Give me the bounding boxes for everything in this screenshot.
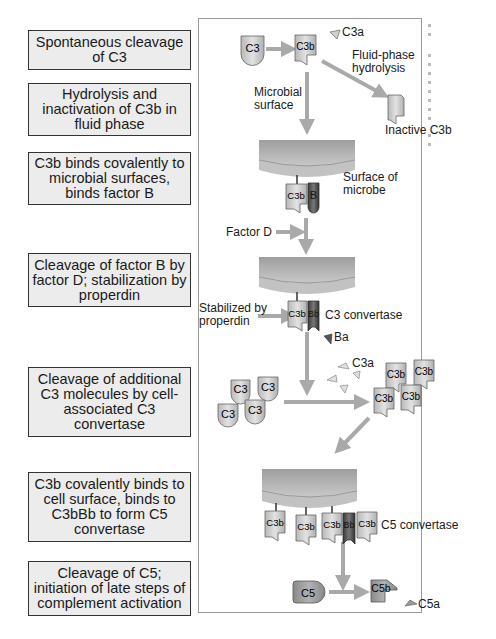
inactive-c3b-label: Inactive C3b <box>385 124 452 137</box>
cell-membrane-3 <box>262 469 357 508</box>
svg-text:B: B <box>310 189 317 201</box>
microbe-membrane-1 <box>259 140 355 177</box>
svg-text:C3b: C3b <box>288 308 305 319</box>
svg-text:C3b: C3b <box>296 41 315 52</box>
svg-text:C3: C3 <box>248 404 262 416</box>
svg-text:C3: C3 <box>261 381 275 393</box>
c5-molecule: C5 <box>293 581 325 603</box>
c3-molecules-cluster: C3 C3 C3 C3 <box>218 377 278 427</box>
svg-text:C5b: C5b <box>371 582 390 594</box>
surface-of-microbe-label: Surface ofmicrobe <box>343 171 398 197</box>
microbial-surface-label: Microbialsurface <box>254 86 302 112</box>
svg-text:C3: C3 <box>221 408 235 420</box>
c3a-fragment <box>330 30 340 39</box>
properdin-label: Stabilized byproperdin <box>199 302 267 328</box>
svg-text:C5: C5 <box>301 587 315 599</box>
c5a-fragment <box>405 600 417 606</box>
svg-text:C3b: C3b <box>297 521 314 532</box>
svg-text:C3b: C3b <box>402 391 421 402</box>
c5-convertase-complex: C3b C3b C3b Bb C3b <box>265 511 377 545</box>
svg-text:C3b: C3b <box>375 393 394 404</box>
fluid-phase-label: Fluid-phasehydrolysis <box>352 49 415 75</box>
c3a-label: C3a <box>342 26 364 39</box>
c3b-molecules-cluster: C3b C3b C3b C3b <box>374 360 434 417</box>
svg-text:C3b: C3b <box>358 518 375 529</box>
c3b-bound-factor-b: C3b B <box>286 183 319 213</box>
svg-text:Bb: Bb <box>343 520 354 530</box>
inactive-c3b-molecule <box>388 95 404 124</box>
factor-d-label: Factor D <box>226 226 272 239</box>
svg-text:Bb: Bb <box>308 309 319 319</box>
c3b-molecule: C3b <box>295 35 316 65</box>
svg-text:C3: C3 <box>245 42 259 54</box>
ba-label: Ba <box>334 331 349 344</box>
svg-text:C3b: C3b <box>323 519 340 530</box>
c3-convertase-c3bbb: C3b Bb <box>288 301 319 331</box>
svg-text:C3b: C3b <box>415 366 434 377</box>
c5b-molecule: C5b <box>371 580 397 602</box>
ba-fragment <box>324 334 332 344</box>
c5-convertase-label: C5 convertase <box>381 519 458 532</box>
svg-text:C3b: C3b <box>387 369 406 380</box>
svg-text:C3: C3 <box>233 383 247 395</box>
c3-convertase-label: C3 convertase <box>325 309 402 322</box>
c3-molecule: C3 <box>241 36 264 66</box>
c3a-cluster-label: C3a <box>352 357 374 370</box>
microbe-membrane-2 <box>259 257 355 294</box>
c5a-label: C5a <box>418 598 440 611</box>
svg-text:C3b: C3b <box>287 190 304 201</box>
svg-text:C3b: C3b <box>266 517 283 528</box>
